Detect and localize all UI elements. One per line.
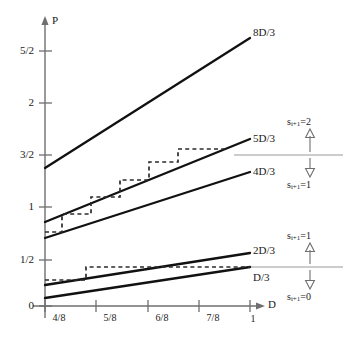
state-label-lower-bottom: si+1=0 [287, 292, 311, 303]
state-value: =2 [300, 116, 311, 127]
state-subscript: i+1 [291, 234, 300, 242]
x-tick-label-7-8: 7/8 [201, 313, 225, 323]
upper-state-indicator [306, 129, 315, 177]
state-value: =1 [300, 230, 311, 241]
staircases [45, 149, 250, 280]
y-tick-label-2: 2 [8, 97, 34, 108]
y-tick-label-5-2: 5/2 [2, 45, 34, 56]
y-axis-title: P [52, 15, 58, 26]
x-axis-arrowhead [256, 302, 265, 309]
line-8D-over-3 [45, 38, 250, 168]
upper-staircase [45, 149, 228, 232]
y-axis-arrowhead [41, 16, 48, 25]
y-tick-label-1-2: 1/2 [2, 254, 34, 265]
state-subscript: i+1 [291, 295, 300, 303]
y-tick-label-3-2: 3/2 [2, 149, 34, 160]
state-label-lower-top: si+1=1 [287, 231, 311, 242]
state-label-upper-bottom: si+1=1 [287, 180, 311, 191]
x-axis-title: D [268, 299, 276, 310]
curve-label-D-over-3: D/3 [253, 272, 270, 283]
curve-label-5D-over-3: 5D/3 [253, 133, 275, 144]
y-tick-label-1: 1 [8, 201, 34, 212]
x-tick-label-5-8: 5/8 [98, 313, 122, 323]
curve-label-8D-over-3: 8D/3 [253, 27, 275, 38]
curve-label-2D-over-3: 2D/3 [253, 245, 275, 256]
x-tick-label-4-8: 4/8 [47, 313, 71, 323]
lower-state-indicator [306, 243, 315, 289]
x-tick-label-6-8: 6/8 [150, 313, 174, 323]
upper-down-triangle-icon [306, 169, 315, 178]
state-value: =1 [300, 179, 311, 190]
state-value: =0 [300, 291, 311, 302]
state-subscript: i+1 [291, 183, 300, 191]
x-tick-label-1: 1 [246, 314, 260, 324]
y-tick-label-0: 0 [8, 300, 34, 311]
state-subscript: i+1 [291, 120, 300, 128]
line-D-over-3 [45, 267, 250, 298]
line-4D-over-3 [45, 172, 250, 238]
data-lines [45, 38, 250, 298]
curve-label-4D-over-3: 4D/3 [253, 166, 275, 177]
state-label-upper-top: si+1=2 [287, 117, 311, 128]
lower-down-triangle-icon [306, 281, 315, 290]
chart-figure: P D 0 1/2 1 3/2 2 5/2 4/8 5/8 6/8 7/8 1 … [0, 0, 343, 343]
